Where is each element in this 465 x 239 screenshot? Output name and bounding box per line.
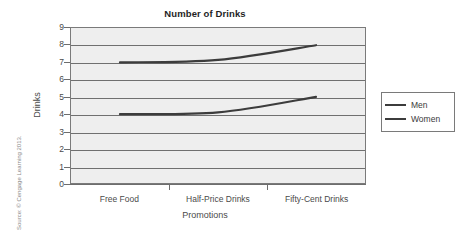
source-credit: Source: © Cengage Learning 2013. <box>16 120 22 230</box>
y-tick-mark <box>64 27 70 28</box>
x-tick-label: Fifty-Cent Drinks <box>267 194 367 204</box>
y-axis-tick-labels: 0123456789 <box>46 22 64 184</box>
x-axis-title: Promotions <box>140 210 270 220</box>
y-tick-label: 7 <box>46 58 64 67</box>
plot-area <box>70 27 366 184</box>
chart-legend: MenWomen <box>381 92 455 132</box>
y-axis-title: Drinks <box>32 75 42 135</box>
y-tick-label: 5 <box>46 93 64 102</box>
y-tick-mark <box>64 79 70 80</box>
legend-line-icon <box>385 118 406 120</box>
x-tick-label: Half-Price Drinks <box>168 194 268 204</box>
y-tick-mark <box>64 62 70 63</box>
y-tick-label: 8 <box>46 40 64 49</box>
y-tick-mark <box>64 44 70 45</box>
chart-figure: Number of Drinks Source: © Cengage Learn… <box>0 0 465 239</box>
chart-title: Number of Drinks <box>130 8 280 19</box>
y-tick-mark <box>64 149 70 150</box>
x-tick-mark <box>169 184 170 190</box>
y-tick-label: 1 <box>46 162 64 171</box>
series-lines <box>71 28 365 183</box>
legend-item[interactable]: Women <box>385 112 450 126</box>
y-tick-mark <box>64 114 70 115</box>
y-tick-mark <box>64 184 70 185</box>
y-tick-label: 0 <box>46 180 64 189</box>
x-tick-label: Free Food <box>69 194 169 204</box>
series-line-women <box>120 97 316 114</box>
y-tick-mark <box>64 132 70 133</box>
y-tick-label: 9 <box>46 23 64 32</box>
legend-line-icon <box>385 104 406 106</box>
x-axis-line <box>70 184 366 185</box>
y-tick-mark <box>64 97 70 98</box>
legend-item[interactable]: Men <box>385 98 450 112</box>
y-tick-label: 6 <box>46 75 64 84</box>
legend-label: Men <box>411 100 428 110</box>
y-tick-mark <box>64 167 70 168</box>
y-tick-label: 3 <box>46 127 64 136</box>
y-tick-label: 4 <box>46 110 64 119</box>
legend-label: Women <box>411 114 440 124</box>
y-tick-label: 2 <box>46 145 64 154</box>
x-tick-mark <box>267 184 268 190</box>
series-line-men <box>120 45 316 62</box>
